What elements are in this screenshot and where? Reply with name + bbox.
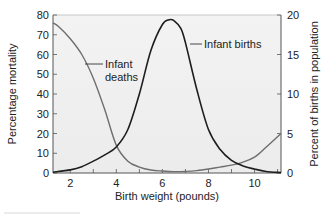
y-tick-label-left: 80 [37,9,49,21]
y-tick-label-left: 10 [37,147,49,159]
y-tick-label-left: 20 [37,128,49,140]
y-tick-label-left: 70 [37,29,49,41]
y-tick-label-left: 0 [43,167,49,179]
y-tick-label-right: 10 [287,88,299,100]
annotation-infant-deaths-line2: deaths [105,71,139,83]
y-axis-left-title: Percentage mortality [6,43,18,144]
y-tick-label-right: 0 [287,167,293,179]
y-tick-label-right: 5 [287,128,293,140]
x-tick-label: 2 [67,177,73,189]
y-tick-label-right: 20 [287,9,299,21]
y-tick-label-left: 60 [37,49,49,61]
annotation-infant-births: Infant births [204,38,262,50]
y-tick-label-left: 40 [37,88,49,100]
annotation-infant-deaths-line1: Infant [105,58,133,70]
y-tick-label-right: 15 [287,49,299,61]
y-tick-label-left: 30 [37,108,49,120]
x-tick-label: 4 [113,177,119,189]
x-tick-label: 10 [248,177,260,189]
y-tick-label-left: 50 [37,68,49,80]
y-axis-right-title: Percent of births in population [308,21,320,167]
x-axis-title: Birth weight (pounds) [115,190,219,202]
x-tick-label: 8 [205,177,211,189]
x-tick-label: 6 [159,177,165,189]
chart-figure: 0102030405060708005101520246810 Infant d… [0,0,329,216]
